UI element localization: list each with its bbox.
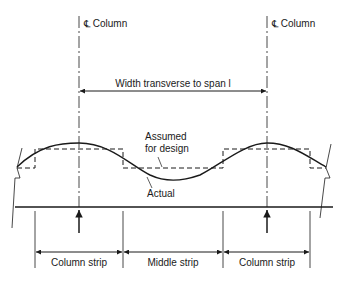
actual-leader [147, 177, 152, 188]
left-break-line [12, 148, 22, 228]
assumed-label-line2: for design [145, 143, 189, 154]
width-label: Width transverse to span l [115, 78, 231, 89]
middle-strip-label: Middle strip [147, 257, 199, 268]
actual-label: Actual [147, 188, 175, 199]
moment-distribution-diagram: ℄ Column ℄ Column Width transverse to sp… [0, 0, 347, 284]
assumed-leader [158, 157, 162, 167]
right-column-label: ℄ Column [271, 18, 315, 29]
left-column-label: ℄ Column [83, 18, 127, 29]
assumed-label-line1: Assumed [145, 131, 187, 142]
column-strip-left-label: Column strip [51, 257, 108, 268]
column-strip-right-label: Column strip [239, 257, 296, 268]
